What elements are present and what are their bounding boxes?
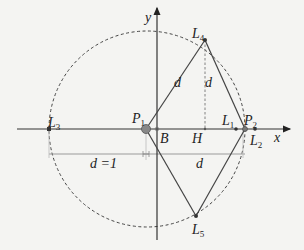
label-l2: L2 (249, 133, 262, 150)
label-d-p1-l4: d (174, 75, 182, 90)
label-p2: P2 (243, 113, 257, 130)
point-l5 (194, 214, 198, 218)
label-l3: L3 (47, 115, 61, 132)
y-axis-label: y (143, 10, 152, 25)
label-p1: P1 (131, 111, 145, 128)
point-h (204, 128, 206, 130)
label-h: H (191, 131, 203, 146)
label-d-equals-1: d =1 (90, 156, 117, 171)
x-axis-label: x (273, 130, 281, 145)
point-l1 (234, 127, 238, 131)
label-l1: L1 (221, 113, 234, 130)
label-l4: L4 (191, 26, 205, 43)
label-b: B (160, 131, 169, 146)
label-d-dim-right: d (196, 156, 204, 171)
label-d-l4-p2: d (205, 75, 213, 90)
label-l5: L5 (191, 222, 205, 239)
diagram-canvas: y x L4 L3 P1 L1 P2 L2 L5 B H d d d =1 d (0, 0, 304, 250)
